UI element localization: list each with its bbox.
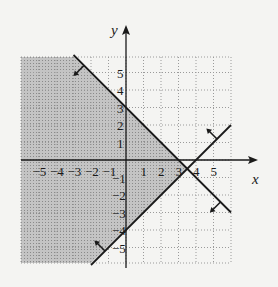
y-tick-label: −2 [112, 188, 126, 203]
y-tick-label: 4 [117, 83, 124, 98]
y-tick-label: 5 [117, 66, 124, 81]
y-tick-label: −3 [112, 206, 126, 221]
x-tick-label: 4 [193, 164, 200, 179]
x-axis-label: x [251, 171, 259, 187]
x-tick-label: −2 [85, 164, 99, 179]
y-tick-label: −1 [112, 171, 126, 186]
x-tick-label: 5 [211, 164, 218, 179]
y-tick-label: 2 [117, 118, 124, 133]
y-tick-label: −4 [112, 223, 126, 238]
x-tick-label: 3 [176, 164, 183, 179]
y-axis-label: y [109, 22, 118, 38]
x-tick-label: 2 [158, 164, 165, 179]
inequality-graph: −5−4−3−2−112345−5−4−3−2−112345 x y [0, 0, 278, 287]
x-tick-label: 1 [141, 164, 148, 179]
x-tick-label: −5 [33, 164, 47, 179]
y-tick-label: −5 [112, 241, 126, 256]
x-tick-label: −3 [68, 164, 82, 179]
x-tick-label: −4 [50, 164, 64, 179]
y-tick-label: 1 [117, 136, 124, 151]
y-tick-label: 3 [117, 101, 124, 116]
